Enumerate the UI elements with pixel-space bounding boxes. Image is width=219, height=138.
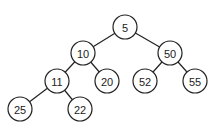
tree-node-11: 11 <box>45 69 69 93</box>
tree-node-20: 20 <box>95 69 119 93</box>
tree-node-10: 10 <box>71 41 95 65</box>
node-label: 22 <box>74 104 86 116</box>
tree-nodes: 51050112052552522 <box>8 15 207 121</box>
tree-node-52: 52 <box>133 69 157 93</box>
node-label: 52 <box>139 76 151 88</box>
node-label: 11 <box>51 76 62 88</box>
tree-node-50: 50 <box>158 41 182 65</box>
tree-edges <box>20 27 195 109</box>
node-label: 50 <box>164 48 176 60</box>
tree-node-22: 22 <box>68 97 92 121</box>
node-label: 10 <box>77 48 89 60</box>
node-label: 5 <box>122 22 128 34</box>
binary-tree-diagram: 51050112052552522 <box>0 0 219 138</box>
tree-node-55: 55 <box>183 69 207 93</box>
tree-node-25: 25 <box>8 97 32 121</box>
tree-node-5: 5 <box>113 15 137 39</box>
node-label: 25 <box>14 104 26 116</box>
node-label: 55 <box>189 76 201 88</box>
node-label: 20 <box>101 76 113 88</box>
